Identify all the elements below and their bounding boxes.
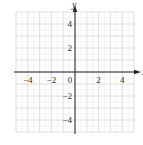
- x-tick-label: −2: [47, 75, 57, 85]
- y-axis-label: y: [71, 0, 77, 10]
- x-tick-label: 2: [96, 75, 101, 85]
- x-axis-arrow-icon: [134, 70, 141, 74]
- y-tick-label: 4: [68, 19, 73, 29]
- y-tick-label: −2: [62, 91, 72, 101]
- y-tick-label: −4: [62, 115, 72, 125]
- x-tick-label: 0: [68, 75, 73, 85]
- coordinate-plane: −4−202442−2−4 x y: [0, 0, 143, 145]
- y-tick-label: 2: [68, 43, 73, 53]
- x-axis-label: x: [141, 66, 143, 77]
- x-tick-label: 4: [120, 75, 125, 85]
- x-tick-label: −4: [23, 75, 33, 85]
